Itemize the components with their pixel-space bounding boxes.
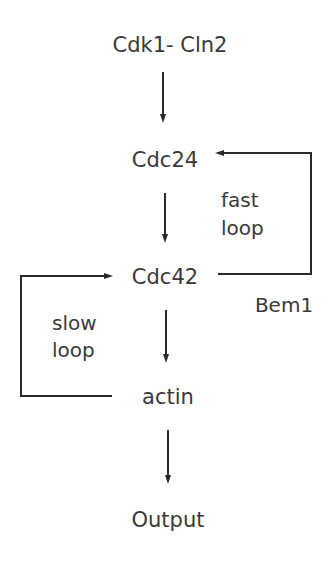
fast-loop-bracket bbox=[215, 150, 311, 274]
arrow-cdk1-to-cdc24 bbox=[160, 72, 166, 123]
node-cdc24: Cdc24 bbox=[132, 148, 198, 172]
node-actin: actin bbox=[142, 385, 194, 409]
signaling-pathway-diagram: Cdk1- Cln2 Cdc24 Cdc42 actin Output fast… bbox=[0, 0, 334, 561]
slow-loop-label-line2: loop bbox=[52, 338, 95, 362]
arrow-cdc24-to-cdc42 bbox=[162, 193, 168, 243]
bem1-label: Bem1 bbox=[255, 293, 313, 317]
slow-loop-label-line1: slow bbox=[52, 311, 97, 335]
node-cdk1-cln2: Cdk1- Cln2 bbox=[113, 33, 228, 57]
fast-loop-label-line2: loop bbox=[221, 216, 264, 240]
node-cdc42: Cdc42 bbox=[132, 265, 198, 289]
arrow-actin-to-output bbox=[165, 430, 171, 484]
fast-loop-label-line1: fast bbox=[221, 188, 259, 212]
arrow-cdc42-to-actin bbox=[163, 310, 169, 363]
node-output: Output bbox=[132, 508, 205, 532]
